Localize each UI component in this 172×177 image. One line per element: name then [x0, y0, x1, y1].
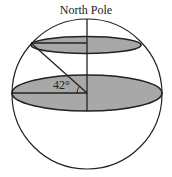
sphere-diagram: 42°	[0, 0, 172, 177]
angle-label: 42°	[53, 78, 70, 92]
latitude-plane	[31, 37, 141, 54]
